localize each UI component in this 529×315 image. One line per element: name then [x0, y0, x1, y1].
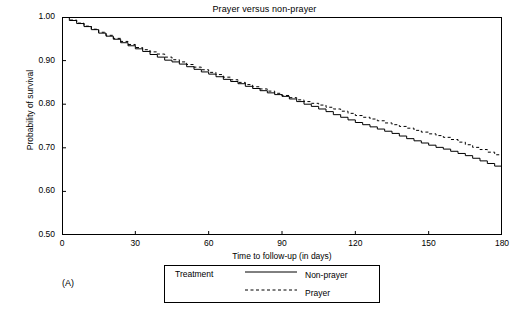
- x-tick-label: 120: [335, 238, 375, 248]
- legend-label-non-prayer: Non-prayer: [305, 270, 348, 280]
- x-tick-label: 60: [189, 238, 229, 248]
- legend-entry-prayer: Prayer: [165, 285, 379, 301]
- y-tick-label: 0.70: [15, 142, 55, 152]
- series-prayer: [62, 17, 502, 157]
- legend-entry-non-prayer: Non-prayer: [165, 267, 379, 283]
- plot-area: [62, 17, 502, 235]
- x-tick-label: 30: [115, 238, 155, 248]
- legend-label-prayer: Prayer: [305, 288, 330, 298]
- x-axis-label: Time to follow-up (in days): [62, 251, 502, 261]
- chart-title: Prayer versus non-prayer: [0, 4, 529, 14]
- x-tick-label: 90: [262, 238, 302, 248]
- y-tick-label: 0.90: [15, 55, 55, 65]
- legend-sample-dashed: [243, 285, 299, 295]
- y-tick-label: 0.60: [15, 185, 55, 195]
- y-tick-label: 0.80: [15, 98, 55, 108]
- x-tick-label: 0: [42, 238, 82, 248]
- figure: Prayer versus non-prayer Probability of …: [0, 0, 529, 315]
- panel-label: (A): [62, 278, 74, 288]
- y-tick-label: 1.00: [15, 11, 55, 21]
- legend-sample-solid: [243, 267, 299, 277]
- legend: Treatment Non-prayer Prayer: [164, 265, 380, 303]
- x-tick-label: 150: [409, 238, 449, 248]
- x-tick-label: 180: [482, 238, 522, 248]
- series-non-prayer: [62, 17, 502, 167]
